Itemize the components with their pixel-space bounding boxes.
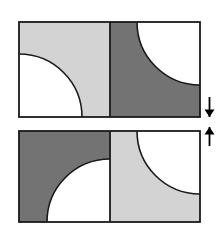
pattern-diagram — [0, 0, 223, 239]
figure-canvas — [0, 0, 223, 239]
